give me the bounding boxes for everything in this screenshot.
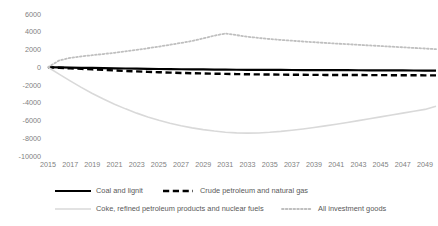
x-axis-tick-label: 2037: [284, 160, 300, 169]
y-axis-tick-label: -4000: [23, 98, 41, 107]
x-axis-tick-label: 2015: [40, 160, 56, 169]
x-axis-tick-label: 2045: [373, 160, 389, 169]
legend-label-1: Crude petroleum and natural gas: [200, 186, 308, 195]
y-axis-tick-label: 0: [37, 63, 41, 72]
y-axis-tick-label: 6000: [25, 10, 41, 19]
x-axis-tick-label: 2029: [195, 160, 211, 169]
x-axis-tick-label: 2047: [395, 160, 411, 169]
series-line-0: [48, 67, 436, 70]
y-axis-tick-label: -10000: [19, 152, 41, 161]
y-axis-tick-label: 2000: [25, 45, 41, 54]
x-axis-tick-label: 2049: [417, 160, 433, 169]
x-axis-tick-label: 2031: [217, 160, 233, 169]
x-axis-tick-label: 2023: [129, 160, 145, 169]
chart-plot-area: 6000400020000-2000-4000-6000-8000-100002…: [0, 0, 438, 226]
series-line-2: [48, 67, 436, 133]
y-axis-tick-label: -2000: [23, 81, 41, 90]
x-axis-tick-label: 2043: [350, 160, 366, 169]
chart-container: 6000400020000-2000-4000-6000-8000-100002…: [0, 0, 438, 226]
legend-label-3: All investment goods: [318, 204, 386, 213]
x-axis-tick-label: 2041: [328, 160, 344, 169]
x-axis-tick-label: 2035: [262, 160, 278, 169]
y-axis-tick-label: -8000: [23, 134, 41, 143]
x-axis-tick-label: 2021: [107, 160, 123, 169]
y-axis-tick-label: 4000: [25, 27, 41, 36]
legend-label-0: Coal and lignit: [96, 186, 143, 195]
x-axis-tick-label: 2033: [240, 160, 256, 169]
chart-svg: 6000400020000-2000-4000-6000-8000-100002…: [0, 0, 438, 226]
legend-label-2: Coke, refined petroleum products and nuc…: [96, 204, 264, 213]
x-axis-tick-label: 2019: [84, 160, 100, 169]
series-line-3: [48, 34, 436, 68]
x-axis-tick-label: 2027: [173, 160, 189, 169]
x-axis-tick-label: 2039: [306, 160, 322, 169]
x-axis-tick-label: 2017: [62, 160, 78, 169]
x-axis-tick-label: 2025: [151, 160, 167, 169]
y-axis-tick-label: -6000: [23, 116, 41, 125]
